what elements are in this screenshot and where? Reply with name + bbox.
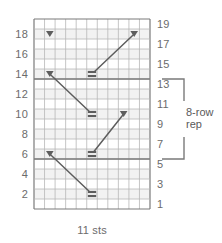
row-label-right-15: 15 bbox=[157, 59, 179, 70]
row-label-left-14: 14 bbox=[6, 69, 28, 80]
row-label-left-16: 16 bbox=[6, 49, 28, 60]
row-shade bbox=[34, 129, 150, 139]
row-label-left-12: 12 bbox=[6, 89, 28, 100]
repeat-label: 8-row rep bbox=[186, 106, 222, 130]
row-shade bbox=[34, 169, 150, 179]
purl-bar-slit bbox=[88, 73, 96, 75]
row-label-left-18: 18 bbox=[6, 29, 28, 40]
row-label-right-1: 1 bbox=[157, 199, 179, 210]
row-label-left-4: 4 bbox=[6, 169, 28, 180]
row-label-left-6: 6 bbox=[6, 149, 28, 160]
row-label-left-2: 2 bbox=[6, 189, 28, 200]
repeat-label-line1: 8-row bbox=[186, 106, 222, 118]
grid-lines-and-symbols bbox=[34, 19, 150, 209]
purl-bar-slit bbox=[88, 153, 96, 155]
chart-grid bbox=[34, 19, 150, 209]
purl-bar-slit bbox=[88, 193, 96, 195]
row-label-right-17: 17 bbox=[157, 39, 179, 50]
purl-bar-slit bbox=[88, 113, 96, 115]
knitting-chart: 18161412108642 191715131197531 8-row rep… bbox=[0, 0, 222, 243]
repeat-label-line2: rep bbox=[186, 118, 222, 130]
row-label-right-19: 19 bbox=[157, 19, 179, 30]
row-label-left-10: 10 bbox=[6, 109, 28, 120]
repeat-bracket-path bbox=[162, 79, 184, 159]
stitch-count-label: 11 sts bbox=[0, 224, 184, 236]
row-label-left-8: 8 bbox=[6, 129, 28, 140]
row-label-right-3: 3 bbox=[157, 179, 179, 190]
row-shade bbox=[34, 89, 150, 99]
row-shade bbox=[34, 49, 150, 59]
